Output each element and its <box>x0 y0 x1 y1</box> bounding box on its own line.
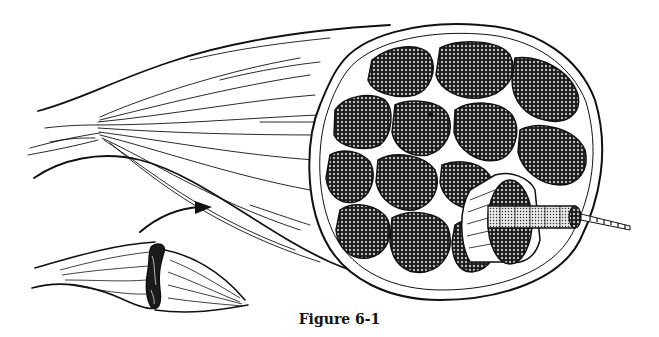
muscle-fiber <box>488 206 581 228</box>
inset-muscle <box>32 242 248 312</box>
cross-section <box>309 24 630 300</box>
pointer-arrow <box>140 201 212 232</box>
muscle-structure-illustration <box>0 0 659 337</box>
myofibril <box>581 214 630 230</box>
figure-caption: Figure 6-1 <box>0 311 659 327</box>
